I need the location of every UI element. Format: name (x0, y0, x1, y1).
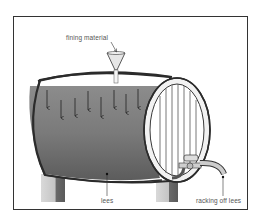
label-racking-off-lees: racking off lees (196, 197, 241, 204)
label-fining-material: fining material (66, 34, 108, 41)
barrel-diagram (0, 0, 259, 218)
fining-pointer (111, 42, 117, 52)
label-lees: lees (101, 197, 113, 204)
racking-hose (200, 163, 224, 174)
